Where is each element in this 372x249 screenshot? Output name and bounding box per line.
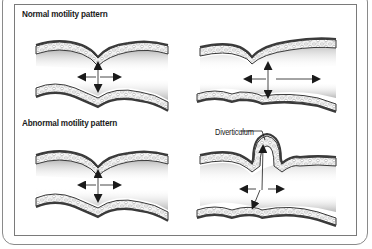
abnormal-motility-heading: Abnormal motility pattern	[22, 117, 117, 128]
panel-abnormal-diverticulum	[197, 131, 336, 226]
normal-motility-heading: Normal motility pattern	[22, 8, 107, 19]
panel-normal-segmenting	[36, 41, 168, 111]
diverticulum-label: Diverticulum	[215, 127, 254, 137]
panel-normal-propulsive	[197, 38, 336, 112]
panel-abnormal-segmenting	[36, 151, 168, 221]
